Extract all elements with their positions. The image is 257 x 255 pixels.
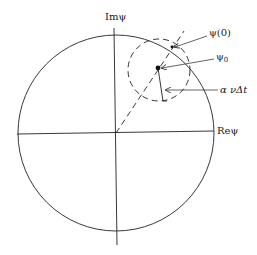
- step-radius-label: α νΔt: [220, 85, 247, 95]
- psi-initial-point: [171, 46, 174, 49]
- psi-initial-label: ψ(0): [209, 28, 231, 38]
- imaginary-axis-label: Imψ: [105, 12, 126, 22]
- psi-zero-subscript: 0: [224, 56, 228, 64]
- imaginary-axis: [114, 28, 117, 245]
- real-axis-label: Reψ: [217, 126, 238, 136]
- psi-zero-symbol: ψ: [216, 51, 224, 62]
- psi-zero-label: ψ0: [216, 52, 228, 64]
- dashed-radius-line: [116, 31, 184, 133]
- step-radius-line: [158, 68, 167, 101]
